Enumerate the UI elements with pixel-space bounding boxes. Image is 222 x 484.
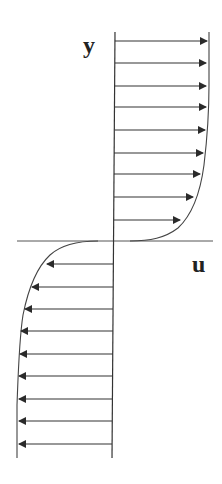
y-axis-label: y <box>83 32 95 58</box>
u-axis-label: u <box>192 251 205 277</box>
velocity-profile-diagram: y u <box>0 0 222 484</box>
y-axis <box>112 32 115 458</box>
negative-velocity-arrows <box>19 264 113 444</box>
positive-velocity-arrows <box>114 41 207 220</box>
